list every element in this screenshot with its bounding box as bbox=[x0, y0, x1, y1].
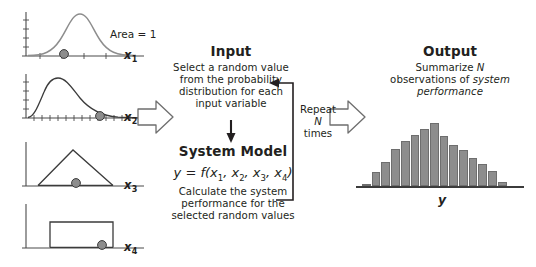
output-block-line1: Summarize N bbox=[378, 62, 522, 74]
input-block-line1: Select a random value bbox=[172, 62, 290, 74]
output-histogram: y bbox=[362, 118, 522, 190]
histogram-bar bbox=[469, 158, 478, 186]
histogram-bar bbox=[478, 164, 487, 186]
axis-label-x1: x1 bbox=[124, 48, 137, 64]
histogram-bar bbox=[488, 171, 497, 186]
histogram-bar bbox=[381, 162, 390, 186]
output-block-line3: performance bbox=[378, 86, 522, 98]
model-block-line3: selected random values bbox=[166, 210, 300, 222]
diagram-canvas: Area = 1 x1 bbox=[0, 0, 536, 267]
input-block-title: Input bbox=[172, 44, 290, 60]
input-block-line3: distribution for each bbox=[172, 86, 290, 98]
model-block-line1: Calculate the system bbox=[166, 186, 300, 198]
histogram-bar bbox=[411, 135, 420, 186]
histogram-bar bbox=[401, 141, 410, 186]
repeat-label-n: N bbox=[296, 116, 340, 128]
model-formula: y = f(x1, x2, x3, x4) bbox=[170, 165, 296, 183]
repeat-loop-label: Repeat N times bbox=[296, 104, 340, 141]
histogram-bar bbox=[430, 123, 439, 186]
input-plot-lognormal-distribution: x2 bbox=[18, 70, 148, 128]
formula-args: (x1, x2, x3, x4) bbox=[205, 165, 292, 180]
input-plot-normal-distribution: Area = 1 x1 bbox=[18, 8, 148, 66]
input-block: Input Select a random value from the pro… bbox=[172, 44, 290, 110]
histogram-bar bbox=[440, 136, 449, 186]
model-block-line2: performance for the bbox=[166, 198, 300, 210]
area-annotation: Area = 1 bbox=[110, 28, 156, 40]
arrow-input-to-model bbox=[227, 120, 236, 143]
histogram-baseline bbox=[356, 186, 524, 188]
input-plot-uniform-distribution: x4 bbox=[18, 200, 148, 258]
output-block-line2: observations of system bbox=[378, 74, 522, 86]
histogram-xlabel: y bbox=[362, 192, 522, 207]
histogram-bar bbox=[391, 149, 400, 186]
histogram-bar bbox=[420, 129, 429, 186]
histogram-bars bbox=[362, 120, 522, 186]
model-block-title: System Model bbox=[170, 144, 296, 160]
input-plot-triangular-distribution: x3 bbox=[18, 138, 148, 196]
axis-label-x4: x4 bbox=[124, 240, 137, 256]
input-block-line4: input variable bbox=[172, 98, 290, 110]
histogram-bar bbox=[449, 145, 458, 186]
output-block-title: Output bbox=[378, 44, 522, 60]
input-block-line2: from the probability bbox=[172, 74, 290, 86]
repeat-label-line1: Repeat bbox=[296, 104, 340, 116]
model-block: System Model bbox=[170, 144, 296, 162]
block-arrow-inputs-to-input bbox=[136, 98, 176, 140]
histogram-bar bbox=[372, 172, 381, 186]
model-block-body: Calculate the system performance for the… bbox=[166, 186, 300, 222]
formula-equals: = bbox=[181, 165, 200, 180]
axis-label-x3: x3 bbox=[124, 178, 137, 194]
repeat-label-line3: times bbox=[296, 128, 340, 140]
output-block-body: Summarize N observations of system perfo… bbox=[378, 62, 522, 98]
input-block-body: Select a random value from the probabili… bbox=[172, 62, 290, 110]
output-block: Output Summarize N observations of syste… bbox=[378, 44, 522, 98]
histogram-bar bbox=[459, 150, 468, 186]
